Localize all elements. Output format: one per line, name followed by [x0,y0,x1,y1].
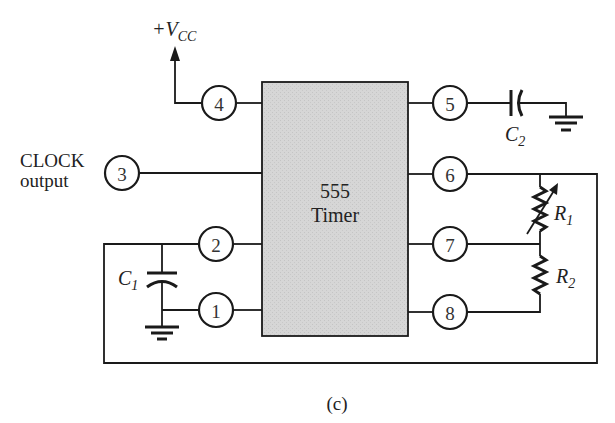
arrow-up-icon [170,46,180,61]
pin-7: 7 [433,227,467,261]
r2-subscript: 2 [568,276,575,291]
pin-6: 6 [433,157,467,191]
vcc-prefix: +V [152,18,180,40]
pin-1: 1 [199,293,233,327]
c1-letter: C [118,267,132,289]
variable-resistor-r1: R1 [527,174,573,244]
chip-label-555: 555 [320,180,350,202]
circuit-diagram: 555 Timer +VCC CLOCK output C1 [0,0,615,423]
capacitor-c2: C2 [467,90,566,149]
vcc-subscript: CC [178,29,197,44]
svg-text:C1: C1 [118,267,138,293]
ground-c2-icon [549,117,583,130]
r2-letter: R [555,265,568,287]
svg-text:R1: R1 [553,202,573,228]
svg-text:5: 5 [445,94,455,115]
svg-text:4: 4 [214,94,224,115]
svg-text:2: 2 [211,235,221,256]
c2-letter: C [505,123,519,145]
svg-text:7: 7 [445,235,455,256]
svg-text:1: 1 [211,301,221,322]
svg-text:3: 3 [117,164,127,185]
figure-caption: (c) [326,393,347,415]
pin-5: 5 [433,86,467,120]
pin-3: 3 [105,156,139,190]
output-label: output [20,170,69,191]
svg-text:8: 8 [445,303,455,324]
clock-label: CLOCK [20,150,85,171]
c2-subscript: 2 [518,134,525,149]
pin-4: 4 [202,86,236,120]
pin-2: 2 [199,227,233,261]
pin-8: 8 [433,295,467,329]
c1-subscript: 1 [131,278,138,293]
svg-text:C2: C2 [505,123,525,149]
capacitor-c1: C1 [118,244,200,327]
svg-text:6: 6 [445,165,455,186]
r1-letter: R [553,202,566,224]
svg-text:R2: R2 [555,265,575,291]
arrow-variable-icon [549,183,558,195]
ground-c1-icon [145,327,179,339]
vcc-supply: +VCC [152,18,202,103]
resistor-r2: R2 [534,244,575,294]
r1-subscript: 1 [566,213,573,228]
svg-text:+VCC: +VCC [152,18,197,44]
chip-label-timer: Timer [311,204,360,226]
